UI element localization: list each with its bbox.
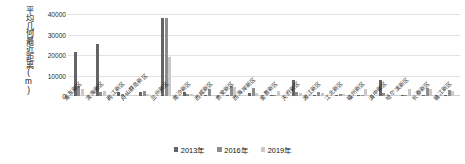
bar <box>364 89 367 96</box>
bar <box>270 95 273 96</box>
legend-label: 2019年 <box>268 144 291 155</box>
y-axis-tick: 10000 <box>48 72 66 79</box>
bar <box>81 89 84 96</box>
bar <box>404 95 407 96</box>
bar <box>313 95 316 96</box>
legend-item[interactable]: 2013年 <box>174 144 204 155</box>
x-axis-tick-labels: 浦东新区滨海新区两江新区舟山群岛新区兰州新区南沙新区西咸新区贵安新区西海岸新区金… <box>68 97 460 141</box>
bar <box>448 90 451 96</box>
bar-chart: 平均几何最近距离(m) 010000200003000040000 浦东新区滨海… <box>0 0 465 164</box>
bar <box>317 92 320 96</box>
bar <box>168 57 171 96</box>
bar <box>444 95 447 96</box>
bar <box>295 92 298 96</box>
legend-label: 2016年 <box>224 144 247 155</box>
bar <box>143 91 146 96</box>
legend-item[interactable]: 2016年 <box>217 144 247 155</box>
bar <box>252 88 255 96</box>
bar <box>339 94 342 96</box>
bar <box>186 94 189 96</box>
y-axis-tick: 40000 <box>48 11 66 18</box>
y-axis-tick: 30000 <box>48 31 66 38</box>
y-axis-tick-labels: 010000200003000040000 <box>30 0 66 96</box>
legend-swatch-icon <box>217 147 222 152</box>
bar <box>139 92 142 96</box>
bar <box>361 95 364 96</box>
bar <box>357 95 360 96</box>
bar <box>426 88 429 96</box>
bar <box>422 95 425 96</box>
y-axis-tick: 20000 <box>48 52 66 59</box>
bar <box>335 95 338 96</box>
bar <box>226 95 229 96</box>
bar <box>277 91 280 96</box>
bar <box>99 92 102 96</box>
bar <box>401 95 404 96</box>
legend-label: 2013年 <box>181 144 204 155</box>
bar <box>204 95 207 96</box>
bar <box>451 91 454 96</box>
bar <box>429 89 432 96</box>
legend-swatch-icon <box>261 147 266 152</box>
bar <box>248 93 251 96</box>
legend-swatch-icon <box>174 147 179 152</box>
chart-legend: 2013年2016年2019年 <box>0 144 465 155</box>
bar <box>273 95 276 96</box>
legend-item[interactable]: 2019年 <box>261 144 291 155</box>
